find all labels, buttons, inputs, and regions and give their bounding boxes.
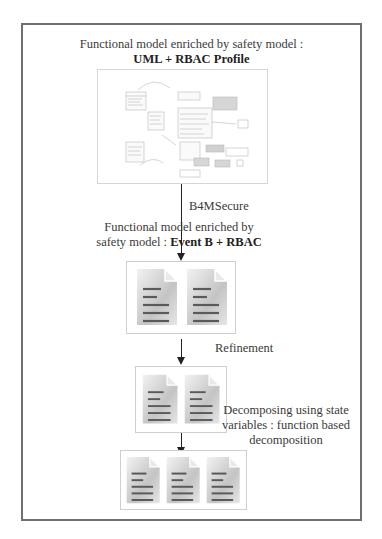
- uml-class-diagram-icon: [98, 70, 267, 183]
- document-icon: [141, 372, 181, 428]
- document-icon: [205, 455, 243, 507]
- stage1-title: Functional model enriched by safety mode…: [21, 37, 362, 67]
- transition1-label: B4MSecure: [189, 199, 249, 214]
- refined-documents-group: [135, 366, 227, 433]
- document-icon: [185, 267, 231, 329]
- arrow-down-icon: [177, 253, 185, 261]
- uml-diagram-image: [97, 69, 268, 184]
- stage2-title-line2: safety model : Event B + RBAC: [86, 235, 272, 250]
- document-icon: [125, 455, 163, 507]
- arrow-line-2: [181, 339, 182, 358]
- stage2-title: Functional model enriched by safety mode…: [86, 220, 272, 250]
- event-b-documents-group: [126, 261, 236, 334]
- stage1-title-line1: Functional model enriched by safety mode…: [21, 37, 362, 52]
- stage1-title-line2: UML + RBAC Profile: [21, 52, 362, 67]
- transition3-label: Decomposing using state variables : func…: [218, 403, 354, 448]
- stage2-title-line1: Functional model enriched by: [86, 220, 272, 235]
- document-icon: [135, 267, 181, 329]
- arrow-down-icon: [177, 357, 185, 365]
- document-icon: [183, 372, 223, 428]
- transition2-label: Refinement: [215, 341, 273, 356]
- document-icon: [165, 455, 203, 507]
- decomposed-documents-group: [120, 450, 247, 510]
